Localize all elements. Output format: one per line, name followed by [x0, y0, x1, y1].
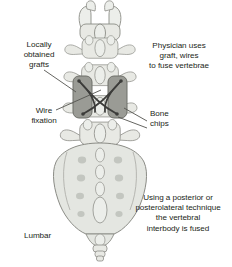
spine-illustration — [0, 0, 232, 267]
sacrum — [53, 143, 146, 234]
graft-block-left — [73, 76, 92, 118]
vertebra-5 — [60, 119, 139, 145]
vertebra-top — [79, 1, 121, 42]
spinal-fusion-figure: Locally obtained grafts Physician uses g… — [0, 0, 232, 267]
coccyx — [86, 234, 114, 261]
graft-block-right — [108, 76, 127, 118]
vertebra-2 — [65, 36, 135, 59]
